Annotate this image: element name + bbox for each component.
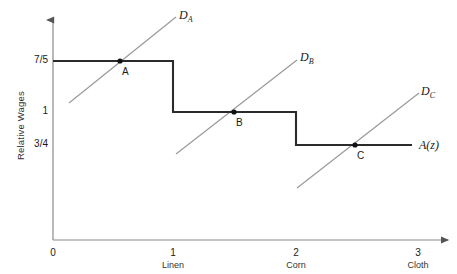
curve-label-da-sub: A <box>188 15 193 24</box>
point-marker-c <box>352 142 357 147</box>
y-tick-1: 1 <box>24 106 48 116</box>
point-marker-b <box>231 109 236 114</box>
curve-label-da-text: D <box>179 8 188 22</box>
curve-label-da: DA <box>179 9 193 24</box>
curve-label-dc-sub: C <box>430 91 435 100</box>
curve-label-dc: DC <box>421 85 435 100</box>
demand-curve-db <box>176 60 297 154</box>
y-tick-7-5: 7/5 <box>24 55 48 65</box>
x-tick-2: 2 <box>284 248 308 258</box>
relative-wages-diagram: Relative Wages 7/5 1 3/4 0 1 2 3 Linen C… <box>0 0 457 274</box>
schedule-label-az: A(z) <box>419 139 439 151</box>
x-tick-0: 0 <box>41 248 65 258</box>
curve-label-db: DB <box>300 51 314 66</box>
curve-label-dc-text: D <box>421 84 430 98</box>
point-label-c: C <box>357 151 364 161</box>
curve-label-db-sub: B <box>309 57 314 66</box>
demand-curve-dc <box>297 93 419 188</box>
y-axis-title: Relative Wages <box>16 91 26 160</box>
x-good-corn: Corn <box>272 261 320 270</box>
curve-label-db-text: D <box>300 50 309 64</box>
point-label-a: A <box>122 67 129 77</box>
point-label-b: B <box>236 118 243 128</box>
point-marker-a <box>117 58 122 63</box>
x-tick-3: 3 <box>406 248 430 258</box>
x-tick-1: 1 <box>161 248 185 258</box>
y-tick-3-4: 3/4 <box>24 139 48 149</box>
x-good-cloth: Cloth <box>394 261 442 270</box>
x-good-linen: Linen <box>149 261 197 270</box>
plot-canvas <box>0 0 457 274</box>
step-schedule-az <box>53 61 412 145</box>
